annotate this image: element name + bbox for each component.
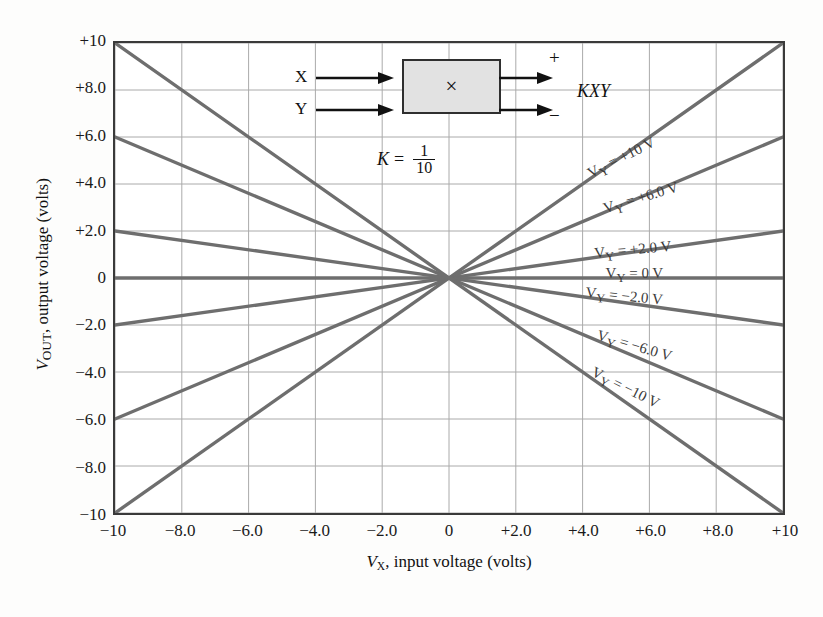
x-tick-label: −6.0 <box>232 521 263 541</box>
x-axis-title: VX, input voltage (volts) <box>113 552 785 573</box>
x-tick-label: −8.0 <box>165 521 196 541</box>
chart-page: +10+8.0+6.0+4.0+2.00−2.0−4.0−6.0−8.0−10 … <box>0 0 823 617</box>
x-tick-label: −10 <box>100 521 127 541</box>
x-tick-label: −2.0 <box>366 521 397 541</box>
x-tick-label: +2.0 <box>501 521 532 541</box>
x-tick-label: 0 <box>445 521 454 541</box>
y-tick-label: +2.0 <box>75 221 106 241</box>
y-tick-label: +4.0 <box>75 173 106 193</box>
x-tick-label: +4.0 <box>568 521 599 541</box>
x-tick-label: +8.0 <box>702 521 733 541</box>
y-tick-label: −2.0 <box>75 315 106 335</box>
x-tick-label: +6.0 <box>635 521 666 541</box>
x-axis-tick-labels: −10−8.0−6.0−4.0−2.00+2.0+4.0+6.0+8.0+10 <box>113 521 785 545</box>
plot-area: VY = +10 VVY = +6.0 VVY = +2.0 VVY = 0 V… <box>113 41 785 515</box>
y-tick-label: +8.0 <box>75 78 106 98</box>
x-tick-label: −4.0 <box>299 521 330 541</box>
y-tick-label: +6.0 <box>75 126 106 146</box>
y-tick-label: −8.0 <box>75 458 106 478</box>
y-tick-label: −4.0 <box>75 363 106 383</box>
y-tick-label: −6.0 <box>75 410 106 430</box>
series-lines <box>115 43 783 513</box>
y-axis-title: VOUT, output voltage (volts) <box>33 134 56 414</box>
y-tick-label: 0 <box>98 268 107 288</box>
y-tick-label: +10 <box>79 31 106 51</box>
x-tick-label: +10 <box>772 521 799 541</box>
